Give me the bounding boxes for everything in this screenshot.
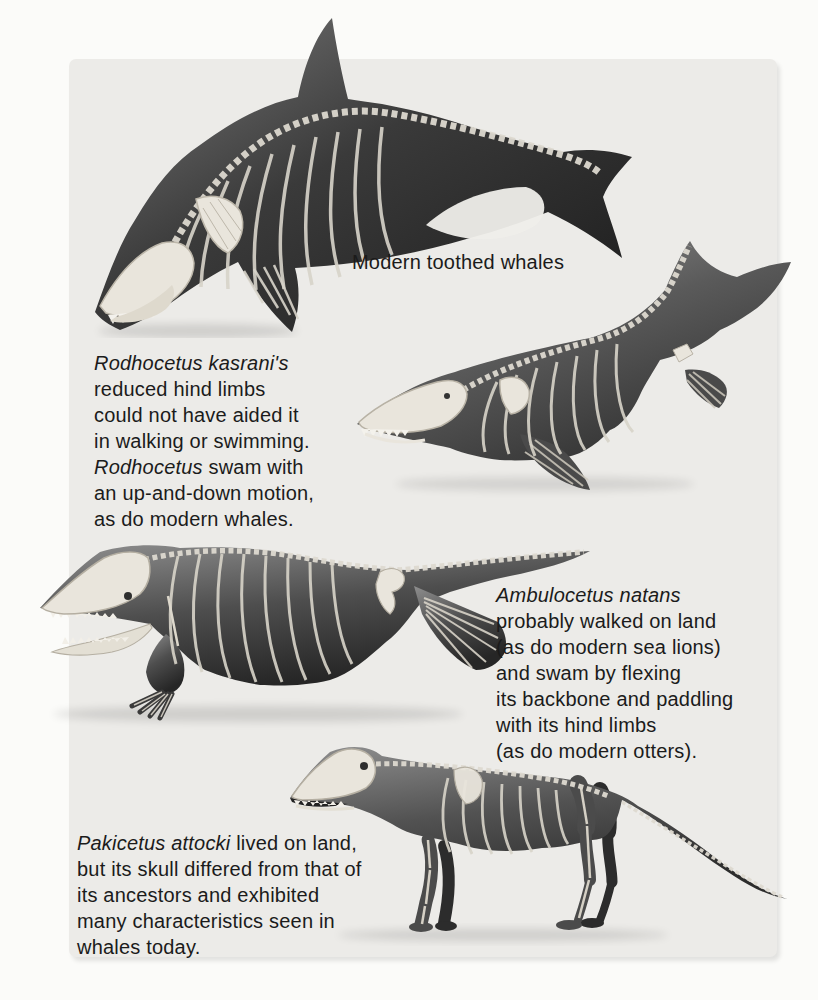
- rodhocetus-eye: [444, 393, 450, 399]
- pakicetus-caption: Pakicetus attocki lived on land,but its …: [77, 830, 362, 960]
- rodhocetus-shadow: [395, 477, 695, 491]
- pakicetus-shadow: [338, 929, 668, 941]
- page-background: Modern toothed whales Rodhocetus kasrani…: [0, 0, 818, 1000]
- ambulocetus-caption: Ambulocetus natansprobably walked on lan…: [496, 582, 733, 764]
- rodhocetus-caption: Rodhocetus kasrani'sreduced hind limbsco…: [94, 350, 314, 532]
- pakicetus-eye: [360, 762, 368, 770]
- modern-whales-label: Modern toothed whales: [352, 249, 564, 275]
- ambulocetus-eye: [124, 592, 132, 600]
- ambulocetus-lower-jaw: [52, 624, 152, 655]
- ambulocetus-shadow: [53, 706, 463, 722]
